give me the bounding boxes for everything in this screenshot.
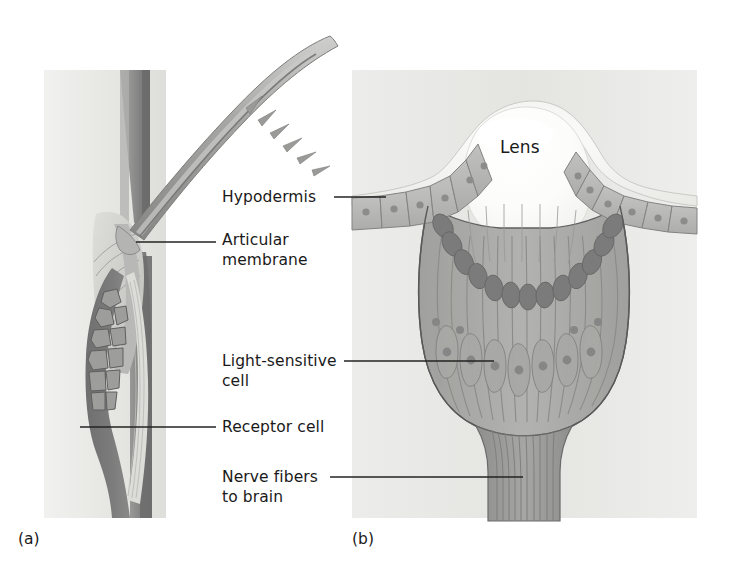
bristle-spines — [246, 96, 330, 176]
nerve-fiber-bundle — [476, 426, 572, 521]
label-light-sensitive-cell-line2: cell — [222, 372, 249, 391]
label-light-sensitive-cell-line1: Light-sensitive — [222, 352, 337, 371]
label-articular-membrane-line1: Articular — [222, 231, 289, 250]
label-nerve-fibers-line1: Nerve fibers — [222, 468, 318, 487]
panel-a-group — [44, 36, 338, 518]
label-lens: Lens — [500, 138, 540, 157]
panel-tag-a: (a) — [18, 530, 40, 548]
cuticle-column-shadow — [142, 70, 150, 222]
label-nerve-fibers-line2: to brain — [222, 488, 283, 507]
label-hypodermis: Hypodermis — [222, 188, 316, 207]
cuticle-column-highlight — [120, 70, 129, 225]
figure-canvas — [0, 0, 732, 586]
label-receptor-cell: Receptor cell — [222, 418, 324, 437]
label-articular-membrane-line2: membrane — [222, 251, 308, 270]
panel-tag-b: (b) — [352, 530, 374, 548]
